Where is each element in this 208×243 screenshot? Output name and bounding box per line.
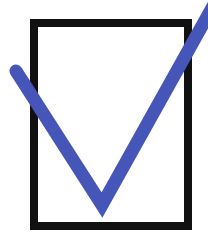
checkmark-icon (0, 0, 208, 243)
checked-checkbox-icon: Checked box (0, 0, 208, 243)
